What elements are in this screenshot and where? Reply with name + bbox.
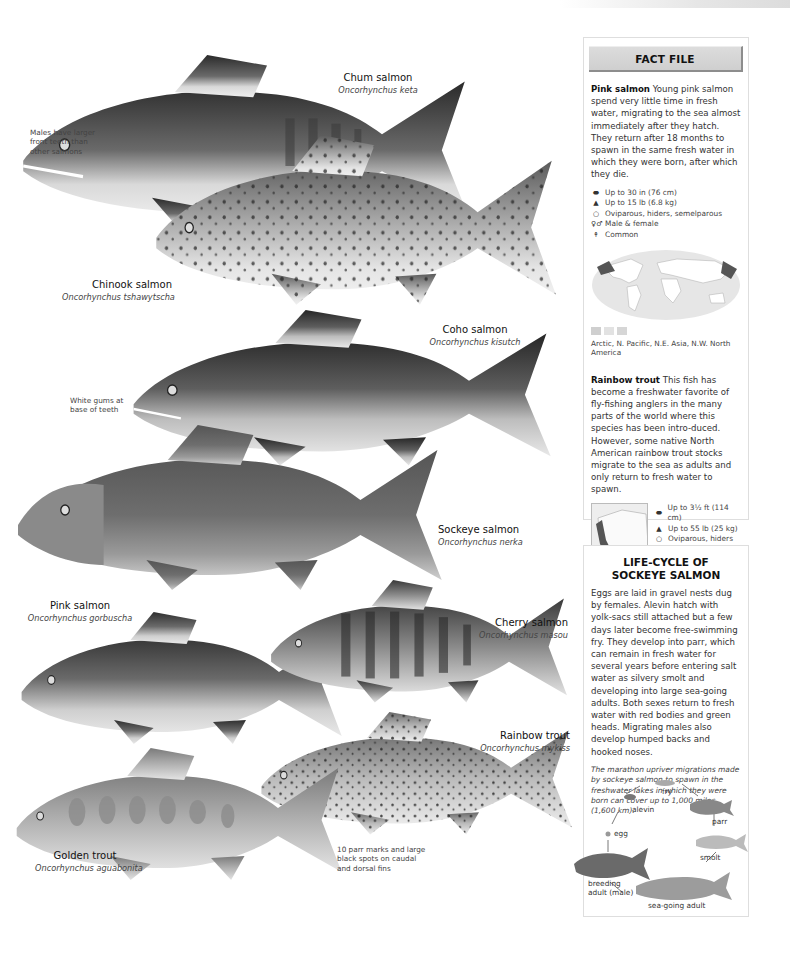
life-cycle-diagram: fry alevin parr egg smolt breeding adult… [566,774,750,914]
stage-alevin: alevin [632,806,654,815]
stat-sex: ♀♂Male & female [591,219,741,230]
world-range-map [591,249,741,321]
stage-parr: parr [712,818,727,827]
fact-file-title: FACT FILE [589,46,743,72]
rainbow-trout-name: Rainbow trout [591,375,660,385]
pink-range-caption: Arctic, N. Pacific, N.E. Asia, N.W. Nort… [584,339,748,357]
stat-status: ↟Common [591,230,741,241]
label-rainbow-trout: Rainbow trout Oncorhynchus mykiss [470,730,570,753]
rainbow-trout-description: Rainbow trout This fish has become a fre… [584,374,748,496]
note-coho-gums: White gums at base of teeth [70,396,130,415]
label-pink-salmon: Pink salmon Oncorhynchus gorbuscha [25,600,135,623]
freshwater-habitat-icon [604,327,614,335]
life-cycle-description: Eggs are laid in gravel nests dug by fem… [584,587,748,758]
sex-icon: ♀♂ [591,219,601,230]
page-top-strip [560,0,790,8]
stage-sea-going-adult: sea-going adult [648,902,705,911]
fact-file-panel: FACT FILE Pink salmon Young pink salmon … [583,37,749,520]
egg-icon: ○ [654,534,664,545]
stat-weight: ▲Up to 55 lb (25 kg) [654,524,741,535]
fish-illustration-sockeye-salmon [18,425,446,600]
stage-breeding-adult: breeding adult (male) [588,880,633,898]
length-icon: ⬬ [591,188,601,199]
stat-breeding: ○Oviparous, hiders [654,534,741,545]
stage-smolt: smolt [700,854,721,863]
life-cycle-title: LIFE-CYCLE OF SOCKEYE SALMON [584,556,748,582]
stat-weight: ▲Up to 15 lb (6.8 kg) [591,198,741,209]
fish-illustration-chinook-salmon [148,135,560,315]
weight-icon: ▲ [654,524,664,535]
stage-fry: fry [662,788,672,797]
label-golden-trout: Golden trout Oncorhynchus aguabonita [35,850,135,873]
weight-icon: ▲ [591,198,601,209]
pink-salmon-name: Pink salmon [591,84,650,94]
label-chum-salmon: Chum salmon Oncorhynchus keta [328,72,428,95]
status-icon: ↟ [591,230,601,241]
label-sockeye-salmon: Sockeye salmon Oncorhynchus nerka [438,524,538,547]
stage-egg: egg [614,830,628,839]
note-chum-teeth: Males have larger front teeth than other… [30,128,100,156]
stat-length: ⬬Up to 30 in (76 cm) [591,188,741,199]
pink-habitat-icons [591,327,741,335]
marine-habitat-icon [591,327,601,335]
label-cherry-salmon: Cherry salmon Oncorhynchus masou [478,617,568,640]
river-habitat-icon [617,327,627,335]
label-chinook-salmon: Chinook salmon Oncorhynchus tshawytscha [62,279,172,302]
egg-icon: ○ [591,209,601,220]
note-golden-marks: 10 parr marks and large black spots on c… [337,845,429,873]
stat-length: ⬬Up to 3½ ft (114 cm) [654,503,741,524]
pink-salmon-description: Pink salmon Young pink salmon spend very… [584,83,748,181]
pink-salmon-stats: ⬬Up to 30 in (76 cm) ▲Up to 15 lb (6.8 k… [591,188,741,241]
life-cycle-panel: LIFE-CYCLE OF SOCKEYE SALMON Eggs are la… [583,545,749,917]
label-coho-salmon: Coho salmon Oncorhynchus kisutch [420,324,530,347]
fish-illustration-cherry-salmon [265,580,570,710]
length-icon: ⬬ [654,508,663,519]
stat-breeding: ○Oviparous, hiders, semelparous [591,209,741,220]
